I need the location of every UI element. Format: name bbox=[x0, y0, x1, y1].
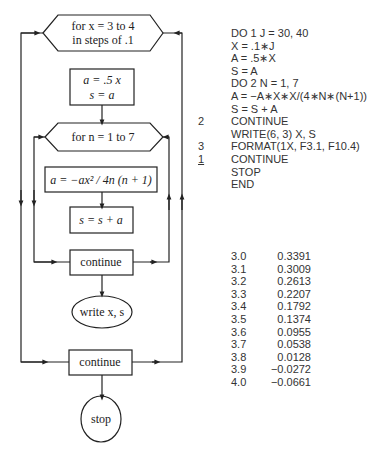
output-x: 3.5 bbox=[231, 313, 261, 326]
outer-loop-step: in steps of .1 bbox=[72, 33, 133, 47]
code-line: X = .1∗J bbox=[231, 40, 367, 53]
statement-code: END bbox=[231, 178, 254, 191]
output-x: 3.7 bbox=[231, 338, 261, 351]
outer-continue-label: continue bbox=[79, 355, 120, 369]
output-s: −0.0661 bbox=[261, 376, 311, 389]
output-row: 3.30.2207 bbox=[231, 288, 311, 301]
statement-label: 2 bbox=[198, 115, 204, 128]
output-row: 3.20.2613 bbox=[231, 275, 311, 288]
output-x: 3.3 bbox=[231, 288, 261, 301]
statement-code: X = .1∗J bbox=[231, 40, 275, 53]
write-label: write x, s bbox=[80, 305, 125, 319]
output-s: −0.0272 bbox=[261, 363, 311, 376]
output-s: 0.1374 bbox=[261, 313, 311, 326]
inner-continue-label: continue bbox=[80, 255, 121, 269]
output-x: 3.4 bbox=[231, 300, 261, 313]
output-row: 3.9−0.0272 bbox=[231, 363, 311, 376]
statement-code: S = S + A bbox=[231, 103, 277, 116]
output-row: 3.10.3009 bbox=[231, 263, 311, 276]
program-output-table: 3.00.33913.10.30093.20.26133.30.22073.40… bbox=[231, 250, 311, 389]
output-s: 0.0955 bbox=[261, 326, 311, 339]
output-row: 4.0−0.0661 bbox=[231, 376, 311, 389]
output-s: 0.2207 bbox=[261, 288, 311, 301]
output-row: 3.50.1374 bbox=[231, 313, 311, 326]
output-s: 0.1792 bbox=[261, 300, 311, 313]
code-line: S = A bbox=[231, 65, 367, 78]
output-s: 0.3009 bbox=[261, 263, 311, 276]
code-line: 1CONTINUE bbox=[231, 153, 367, 166]
statement-label: 1 bbox=[198, 153, 204, 166]
fortran-program: DO 1 J = 30, 40X = .1∗JA = .5∗XS = ADO 2… bbox=[231, 27, 367, 191]
output-row: 3.80.0128 bbox=[231, 351, 311, 364]
init-s-label: s = a bbox=[90, 88, 115, 102]
output-x: 3.2 bbox=[231, 275, 261, 288]
statement-label: 3 bbox=[198, 140, 204, 153]
output-x: 3.0 bbox=[231, 250, 261, 263]
init-a-label: a = .5 x bbox=[83, 73, 121, 87]
code-line: END bbox=[231, 178, 367, 191]
output-s: 0.2613 bbox=[261, 275, 311, 288]
code-line: 2CONTINUE bbox=[231, 115, 367, 128]
output-row: 3.70.0538 bbox=[231, 338, 311, 351]
output-s: 0.3391 bbox=[261, 250, 311, 263]
statement-code: A = −A∗X∗X/(4∗N∗(N+1)) bbox=[231, 90, 367, 103]
flowchart: for x = 3 to 4 in steps of .1 a = .5 x s… bbox=[0, 0, 230, 460]
output-s: 0.0538 bbox=[261, 338, 311, 351]
statement-code: CONTINUE bbox=[231, 153, 288, 166]
code-line: A = −A∗X∗X/(4∗N∗(N+1)) bbox=[231, 90, 367, 103]
output-row: 3.40.1792 bbox=[231, 300, 311, 313]
statement-code: FORMAT(1X, F3.1, F10.4) bbox=[231, 140, 360, 153]
outer-loop-label: for x = 3 to 4 bbox=[71, 19, 134, 33]
statement-code: WRITE(6, 3) X, S bbox=[231, 128, 316, 141]
output-x: 3.6 bbox=[231, 326, 261, 339]
stop-label: stop bbox=[91, 412, 111, 426]
code-line: A = .5∗X bbox=[231, 52, 367, 65]
output-s: 0.0128 bbox=[261, 351, 311, 364]
statement-code: DO 1 J = 30, 40 bbox=[231, 27, 308, 40]
code-line: 3FORMAT(1X, F3.1, F10.4) bbox=[231, 140, 367, 153]
statement-code: STOP bbox=[231, 166, 261, 179]
output-x: 3.8 bbox=[231, 351, 261, 364]
code-line: DO 2 N = 1, 7 bbox=[231, 77, 367, 90]
output-x: 3.9 bbox=[231, 363, 261, 376]
code-line: STOP bbox=[231, 166, 367, 179]
output-row: 3.00.3391 bbox=[231, 250, 311, 263]
output-x: 4.0 bbox=[231, 376, 261, 389]
code-line: DO 1 J = 30, 40 bbox=[231, 27, 367, 40]
code-line: S = S + A bbox=[231, 103, 367, 116]
statement-code: CONTINUE bbox=[231, 115, 288, 128]
output-x: 3.1 bbox=[231, 263, 261, 276]
update-s-label: s = s + a bbox=[79, 213, 123, 227]
update-a-label: a = −ax² / 4n (n + 1) bbox=[50, 173, 152, 187]
inner-loop-label: for n = 1 to 7 bbox=[71, 130, 134, 144]
statement-code: DO 2 N = 1, 7 bbox=[231, 77, 299, 90]
statement-code: S = A bbox=[231, 65, 258, 78]
output-row: 3.60.0955 bbox=[231, 326, 311, 339]
code-line: WRITE(6, 3) X, S bbox=[231, 128, 367, 141]
statement-code: A = .5∗X bbox=[231, 52, 276, 65]
